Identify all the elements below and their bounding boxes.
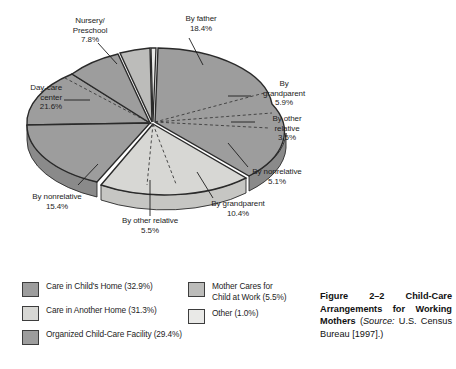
legend-swatch-icon	[22, 330, 39, 345]
callout-by-grandparent-right: By grandparent 5.9%	[252, 79, 316, 108]
legend-label: Organized Child-Care Facility (29.4%)	[46, 329, 182, 340]
legend-swatch-icon	[188, 282, 205, 297]
legend-label: Other (1.0%)	[212, 308, 258, 319]
legend-item-mother-cares-at-work[interactable]: Mother Cares for Child at Work (5.5%)	[188, 281, 318, 302]
legend-item-care-in-childs-home[interactable]: Care in Child's Home (32.9%)	[22, 281, 197, 297]
legend-swatch-icon	[22, 282, 39, 297]
figure-container: Nursery/ Preschool 7.8% Day-care center …	[0, 0, 456, 369]
callout-by-other-relative-bottom: By other relative 5.5%	[104, 216, 196, 235]
legend-swatch-icon	[188, 309, 205, 324]
callout-by-other-relative-right: By other relative 3.5%	[256, 114, 318, 143]
legend-item-care-in-another-home[interactable]: Care in Another Home (31.3%)	[22, 305, 197, 321]
callout-day-care-center: Day-care center 21.6%	[2, 83, 62, 112]
legend-label: Care in Child's Home (32.9%)	[46, 281, 153, 292]
figure-caption: Figure 2–2 Child-Care Arrangements for W…	[320, 290, 452, 340]
legend-label: Care in Another Home (31.3%)	[46, 305, 157, 316]
callout-nursery-preschool: Nursery/ Preschool 7.8%	[54, 16, 126, 45]
caption-source-label: Source:	[363, 316, 395, 326]
callout-by-nonrelative-right: By nonrelative 5.1%	[238, 167, 316, 186]
caption-source-open: (	[356, 316, 363, 326]
legend-label: Mother Cares for Child at Work (5.5%)	[212, 281, 286, 302]
legend-column-right: Mother Cares for Child at Work (5.5%) Ot…	[188, 281, 318, 330]
legend-column-left: Care in Child's Home (32.9%) Care in Ano…	[22, 281, 197, 353]
legend-item-other[interactable]: Other (1.0%)	[188, 308, 318, 324]
chart-legend: Care in Child's Home (32.9%) Care in Ano…	[22, 281, 312, 353]
callout-by-father: By father 18.4%	[170, 14, 232, 33]
pie-chart: Nursery/ Preschool 7.8% Day-care center …	[0, 0, 340, 265]
callout-by-grandparent-bottom: By grandparent 10.4%	[196, 199, 280, 218]
legend-item-organized-child-care-facility[interactable]: Organized Child-Care Facility (29.4%)	[22, 329, 197, 345]
legend-swatch-icon	[22, 306, 39, 321]
callout-by-nonrelative-left: By nonrelative 15.4%	[20, 192, 94, 211]
